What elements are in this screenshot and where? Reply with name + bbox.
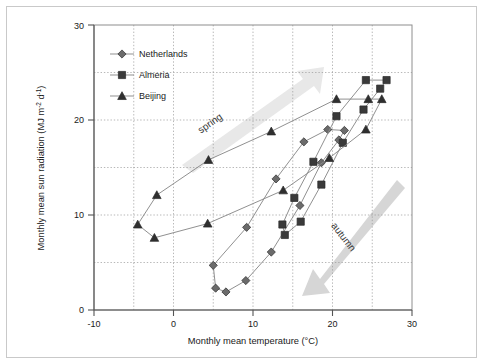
data-point: [267, 127, 276, 135]
x-tick-labels: -10 0 10 20 30: [87, 319, 417, 329]
x-tick-30: 30: [407, 319, 417, 329]
data-point: [360, 106, 367, 113]
data-point: [296, 201, 304, 209]
data-point: [272, 175, 280, 183]
grid-lines: [94, 25, 412, 310]
data-point: [333, 113, 340, 120]
data-point: [133, 220, 142, 228]
data-point: [203, 219, 212, 227]
chart-legend: NetherlandsAlmeriaBeijing: [110, 49, 188, 101]
legend-label: Beijing: [139, 91, 166, 101]
x-tick-0: 0: [171, 319, 176, 329]
legend-item-almeria[interactable]: Almeria: [110, 70, 170, 80]
y-tick-labels: 0 10 20 30: [74, 21, 84, 315]
legend-marker-diamond-icon: [118, 50, 126, 58]
data-point: [362, 125, 371, 133]
data-point: [300, 138, 308, 146]
data-point: [297, 218, 304, 225]
x-axis-title: Monthly mean temperature (°C): [188, 336, 318, 346]
legend-item-beijing[interactable]: Beijing: [110, 91, 166, 101]
data-point: [362, 76, 369, 83]
y-tick-20: 20: [74, 115, 84, 125]
data-point: [279, 186, 288, 194]
data-point: [153, 191, 162, 199]
svg-text:Monthly mean sun radiation (MJ: Monthly mean sun radiation (MJ m-2 d-1): [35, 86, 46, 251]
data-point: [291, 194, 298, 201]
data-point: [318, 181, 325, 188]
data-point: [281, 231, 288, 238]
y-axis-title: Monthly mean sun radiation (MJ m-2 d-1): [35, 86, 46, 251]
legend-label: Almeria: [139, 70, 170, 80]
series-line: [282, 80, 386, 235]
y-tick-0: 0: [79, 305, 84, 315]
x-tick-neg10: -10: [87, 319, 100, 329]
x-axis-ticks: [94, 310, 412, 316]
y-tick-10: 10: [74, 210, 84, 220]
figure-container: 0 10 20 30 -10 0 10 20 30 Monthly mean t…: [0, 0, 483, 364]
legend-marker-square-icon: [118, 71, 125, 78]
y-axis-title-base3: ): [36, 86, 46, 89]
autumn-arrow: [302, 180, 405, 296]
scatter-line-chart: 0 10 20 30 -10 0 10 20 30 Monthly mean t…: [0, 0, 483, 364]
x-tick-10: 10: [248, 319, 258, 329]
y-axis-ticks: [88, 25, 94, 310]
data-point: [340, 126, 348, 134]
legend-label: Netherlands: [139, 49, 188, 59]
data-point: [310, 158, 317, 165]
data-point: [324, 125, 332, 133]
y-axis-title-base1: Monthly mean sun radiation (MJ m: [36, 108, 46, 251]
data-point: [383, 76, 390, 83]
data-point: [212, 284, 220, 292]
y-tick-30: 30: [74, 21, 84, 31]
data-point: [377, 85, 384, 92]
series-line: [213, 130, 344, 292]
x-tick-20: 20: [327, 319, 337, 329]
spring-label: spring: [196, 111, 225, 136]
data-point: [279, 221, 286, 228]
y-axis-title-base2: d: [36, 94, 46, 102]
data-point: [222, 288, 230, 296]
legend-item-netherlands[interactable]: Netherlands: [110, 49, 188, 59]
